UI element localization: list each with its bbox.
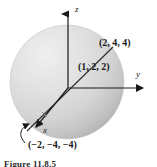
figure-caption: Figure 11.8.5: [4, 159, 56, 167]
point-label-mid: (1, 2, 2): [78, 62, 110, 72]
figure-container: z y x (2, 4, 4) (1, 2, 2) (−2, −4, −4) F…: [0, 0, 157, 167]
z-axis-label: z: [75, 5, 79, 14]
point-label-lower: (−2, −4, −4): [28, 140, 77, 150]
y-axis-label: y: [136, 70, 140, 79]
coordinate-sphere-figure: [0, 0, 157, 167]
point-label-upper: (2, 4, 4): [99, 38, 131, 48]
x-axis-label: x: [43, 126, 47, 135]
